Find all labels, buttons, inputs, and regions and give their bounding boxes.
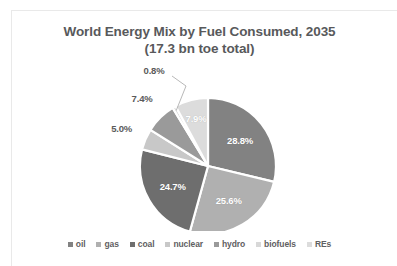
- legend-label-biofuels: biofuels: [264, 239, 296, 249]
- chart-title-line-2: (17.3 bn toe total): [12, 40, 387, 57]
- legend-swatch-gas: [96, 242, 101, 247]
- pie-chart-plot-area: 28.8%25.6%24.7%5.0%7.4%0.8%7.9%: [12, 59, 387, 231]
- legend-swatch-biofuels: [256, 242, 261, 247]
- pie-label-hydro: 7.4%: [128, 93, 156, 104]
- legend-item-oil[interactable]: oil: [68, 239, 86, 249]
- legend-item-gas[interactable]: gas: [96, 239, 118, 249]
- chart-card: World Energy Mix by Fuel Consumed, 2035 …: [11, 10, 397, 266]
- legend-swatch-REs: [307, 242, 312, 247]
- pie-label-REs: 7.9%: [182, 113, 210, 124]
- legend-label-REs: REs: [315, 239, 331, 249]
- legend-item-nuclear[interactable]: nuclear: [165, 239, 203, 249]
- legend-label-oil: oil: [76, 239, 86, 249]
- legend-item-REs[interactable]: REs: [307, 239, 331, 249]
- legend-label-hydro: hydro: [222, 239, 245, 249]
- legend-item-coal[interactable]: coal: [130, 239, 155, 249]
- legend-swatch-nuclear: [165, 242, 170, 247]
- pie-label-gas: 25.6%: [215, 195, 243, 206]
- legend-item-hydro[interactable]: hydro: [214, 239, 245, 249]
- pie-chart-svg: [12, 59, 387, 231]
- chart-title-line-1: World Energy Mix by Fuel Consumed, 2035: [64, 24, 336, 39]
- legend-label-coal: coal: [138, 239, 155, 249]
- pie-label-coal: 24.7%: [159, 181, 187, 192]
- legend-item-biofuels[interactable]: biofuels: [256, 239, 296, 249]
- pie-label-biofuels: 0.8%: [140, 65, 168, 76]
- pie-label-oil: 28.8%: [226, 135, 254, 146]
- chart-title: World Energy Mix by Fuel Consumed, 2035 …: [12, 23, 387, 57]
- legend-label-gas: gas: [104, 239, 118, 249]
- legend-swatch-coal: [130, 242, 135, 247]
- legend-swatch-hydro: [214, 242, 219, 247]
- legend-label-nuclear: nuclear: [173, 239, 203, 249]
- legend-swatch-oil: [68, 242, 73, 247]
- chart-legend: oilgascoalnuclearhydrobiofuelsREs: [12, 239, 387, 249]
- pie-label-nuclear: 5.0%: [108, 123, 136, 134]
